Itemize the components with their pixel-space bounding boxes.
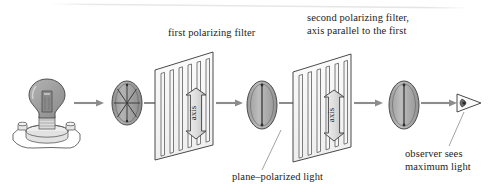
transmitted-light-oval xyxy=(389,81,419,129)
label-observer-sees-maximum-light: observer sees maximum light xyxy=(405,148,471,173)
light-bulb-source xyxy=(13,79,80,148)
label-second-filter-line2: axis parallel to the first xyxy=(307,25,409,38)
polarization-diagram: axis xyxy=(0,0,501,195)
second-polarizing-filter: axis xyxy=(293,54,351,162)
filter-axis-label: axis xyxy=(188,105,198,120)
label-first-polarizing-filter: first polarizing filter xyxy=(168,27,255,40)
ray-arrow-6 xyxy=(421,100,457,107)
label-first-filter-line1: first polarizing filter xyxy=(168,27,255,40)
ray-arrow-3 xyxy=(216,100,243,107)
top-rule xyxy=(50,4,470,8)
label-observer-line1: observer sees xyxy=(405,148,471,161)
bulb-terminal-left xyxy=(13,122,27,140)
label-second-polarizing-filter: second polarizing filter, axis parallel … xyxy=(307,12,409,37)
unpolarized-light-oval xyxy=(112,81,142,125)
label-observer-line2: maximum light xyxy=(405,161,471,174)
plane-polarized-light-oval xyxy=(247,81,277,129)
filter-axis-label: axis xyxy=(326,107,336,122)
ray-arrow-5 xyxy=(354,100,383,107)
label-plane-polarized-light: plane–polarized light xyxy=(232,171,323,184)
label-plane-polarized-line1: plane–polarized light xyxy=(232,171,323,184)
bulb-socket xyxy=(39,117,55,129)
bulb-glass xyxy=(29,79,65,118)
unpolarized-rays xyxy=(114,85,140,121)
label-second-filter-line1: second polarizing filter, xyxy=(307,12,409,25)
ray-arrow-1 xyxy=(74,100,104,107)
first-polarizing-filter: axis xyxy=(155,52,213,160)
leader-line-plane-polarized xyxy=(262,130,281,170)
leader-line-observer xyxy=(449,112,464,146)
